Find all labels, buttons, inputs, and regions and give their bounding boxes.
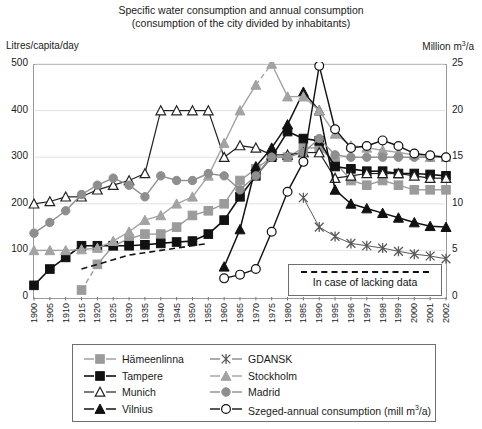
legend-label: GDANSK xyxy=(248,352,292,366)
y-tick-left-400: 400 xyxy=(0,104,28,115)
legend-label: Madrid xyxy=(248,385,280,399)
x-tick-1960: 1960 xyxy=(219,303,229,323)
x-tick-1915: 1915 xyxy=(77,303,87,323)
legend-symbol-triangle-open-icon xyxy=(83,385,117,399)
x-tick-1990: 1990 xyxy=(314,303,324,323)
legend-symbol-triangle-icon xyxy=(83,402,117,416)
chart-title-line2: (consumption of the city divided by inha… xyxy=(0,17,482,30)
x-tick-1930: 1930 xyxy=(124,303,134,323)
y-axis-right-label: Million m3/a xyxy=(422,40,474,52)
x-tick-1920: 1920 xyxy=(92,303,102,323)
legend-label: Tampere xyxy=(122,369,163,383)
lacking-data-label: In case of lacking data xyxy=(289,276,441,288)
x-tick-1950: 1950 xyxy=(187,303,197,323)
legend-label: Szeged-annual consumption (mill m3/a) xyxy=(248,401,431,418)
chart-legend: HämeenlinnaTampereMunichVilnius GDANSKSt… xyxy=(72,344,436,422)
legend-item-tampere[interactable]: Tampere xyxy=(83,368,203,385)
x-tick-1900: 1900 xyxy=(29,303,39,323)
x-tick-2002: 2002 xyxy=(441,303,451,323)
legend-item-h-meenlinna[interactable]: Hämeenlinna xyxy=(83,351,203,368)
y-tick-left-500: 500 xyxy=(0,57,28,68)
x-tick-1925: 1925 xyxy=(108,303,118,323)
y-tick-right-10: 10 xyxy=(452,197,480,208)
x-tick-1940: 1940 xyxy=(156,303,166,323)
y-tick-left-0: 0 xyxy=(0,290,28,301)
y-tick-right-15: 15 xyxy=(452,150,480,161)
x-tick-1996: 1996 xyxy=(346,303,356,323)
y-tick-right-20: 20 xyxy=(452,104,480,115)
y-tick-right-5: 5 xyxy=(452,243,480,254)
x-tick-1999: 1999 xyxy=(393,303,403,323)
legend-symbol-circle-icon xyxy=(209,385,243,399)
x-tick-1998: 1998 xyxy=(378,303,388,323)
legend-item-szeged-annual-consumption-mill-m3-a[interactable]: Szeged-annual consumption (mill m3/a) xyxy=(209,401,431,418)
x-tick-1945: 1945 xyxy=(172,303,182,323)
legend-item-vilnius[interactable]: Vilnius xyxy=(83,401,203,418)
legend-item-munich[interactable]: Munich xyxy=(83,384,203,401)
x-tick-1905: 1905 xyxy=(45,303,55,323)
legend-label: Vilnius xyxy=(122,402,153,416)
legend-symbol-star-icon xyxy=(209,352,243,366)
legend-column-1: HämeenlinnaTampereMunichVilnius xyxy=(83,351,203,417)
x-tick-1980: 1980 xyxy=(283,303,293,323)
y-axis-left-label: Litres/capita/day xyxy=(6,40,79,51)
x-tick-1985: 1985 xyxy=(298,303,308,323)
legend-symbol-circle-open-icon xyxy=(209,402,243,416)
x-tick-1935: 1935 xyxy=(140,303,150,323)
x-tick-1965: 1965 xyxy=(235,303,245,323)
chart-title-line1: Specific water consumption and annual co… xyxy=(0,4,482,17)
y-tick-right-0: 0 xyxy=(452,290,480,301)
lacking-data-note: In case of lacking data xyxy=(288,264,442,296)
dashed-line-sample xyxy=(301,271,429,273)
legend-item-madrid[interactable]: Madrid xyxy=(209,384,431,401)
x-tick-1975: 1975 xyxy=(267,303,277,323)
legend-label: Stockholm xyxy=(248,369,297,383)
legend-label: Munich xyxy=(122,385,156,399)
legend-symbol-square-icon xyxy=(83,352,117,366)
x-tick-1955: 1955 xyxy=(203,303,213,323)
chart-title: Specific water consumption and annual co… xyxy=(0,4,482,30)
y-tick-left-100: 100 xyxy=(0,243,28,254)
x-tick-2000: 2000 xyxy=(409,303,419,323)
y-tick-left-300: 300 xyxy=(0,150,28,161)
legend-item-stockholm[interactable]: Stockholm xyxy=(209,368,431,385)
legend-symbol-square-icon xyxy=(83,369,117,383)
legend-label: Hämeenlinna xyxy=(122,352,184,366)
legend-column-2: GDANSKStockholmMadridSzeged-annual consu… xyxy=(209,351,431,417)
x-tick-1997: 1997 xyxy=(362,303,372,323)
y-tick-left-200: 200 xyxy=(0,197,28,208)
x-tick-1970: 1970 xyxy=(251,303,261,323)
y-tick-right-25: 25 xyxy=(452,57,480,68)
legend-symbol-triangle-icon xyxy=(209,369,243,383)
legend-item-gdansk[interactable]: GDANSK xyxy=(209,351,431,368)
x-tick-2001: 2001 xyxy=(425,303,435,323)
x-tick-1910: 1910 xyxy=(61,303,71,323)
x-tick-1995: 1995 xyxy=(330,303,340,323)
